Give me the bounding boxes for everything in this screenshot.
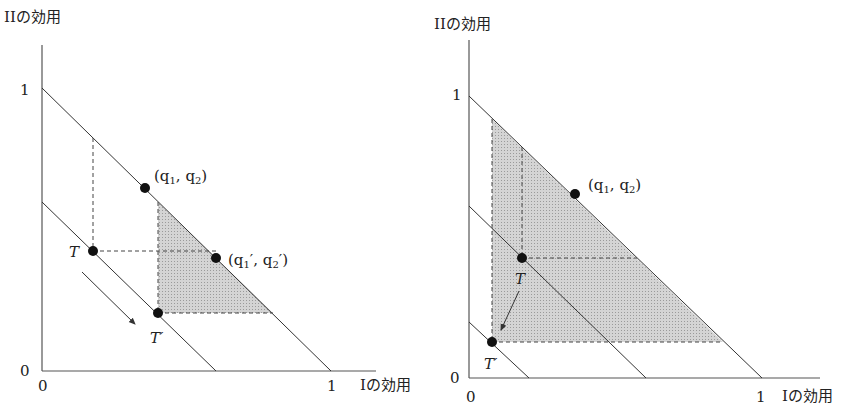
x-tick-0: 0 <box>38 377 48 395</box>
x-axis-label: Iの効用 <box>360 376 411 394</box>
y-axis-label: IIの効用 <box>4 8 61 26</box>
point-q <box>570 189 580 199</box>
shift-arrow <box>82 272 135 324</box>
label-T: T <box>515 270 526 288</box>
y-axis-label: IIの効用 <box>434 15 491 33</box>
point-T <box>517 253 527 263</box>
label-q-prime: (q1′, q2′) <box>228 251 288 270</box>
x-tick-0: 0 <box>466 388 476 406</box>
y-tick-1: 1 <box>20 81 30 99</box>
label-T: T <box>69 243 80 261</box>
shaded-region <box>492 119 723 342</box>
right-figure: IIの効用 Iの効用 1 0 0 1 (q1, q2) T T′ <box>434 15 833 406</box>
label-q: (q1, q2) <box>154 167 207 186</box>
y-tick-1: 1 <box>452 86 462 104</box>
y-tick-0: 0 <box>450 369 460 387</box>
x-axis-label: Iの効用 <box>782 387 833 405</box>
label-T-prime: T′ <box>484 355 498 373</box>
x-tick-1: 1 <box>327 377 337 395</box>
utility-frontier-line <box>42 88 331 371</box>
x-tick-1: 1 <box>756 388 766 406</box>
point-T-prime <box>153 308 163 318</box>
label-T-prime: T′ <box>150 329 164 347</box>
diagram-canvas: IIの効用 Iの効用 1 0 0 1 (q1, q2) (q1′, q2′) T… <box>0 0 848 409</box>
point-q-prime <box>211 253 221 263</box>
left-figure: IIの効用 Iの効用 1 0 0 1 (q1, q2) (q1′, q2′) T… <box>4 8 411 395</box>
point-T <box>88 246 98 256</box>
label-q: (q1, q2) <box>588 176 641 195</box>
point-q <box>140 183 150 193</box>
y-tick-0: 0 <box>20 362 30 380</box>
point-T-prime <box>487 337 497 347</box>
